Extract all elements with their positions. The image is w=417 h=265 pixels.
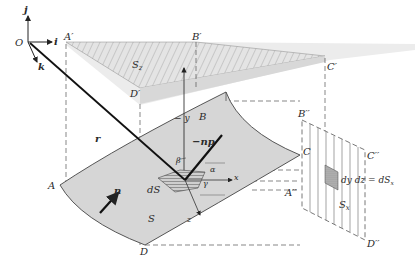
neg-y-label: − y [174, 113, 190, 123]
x-axis-label: x [234, 173, 239, 182]
c-prime-label: C′ [327, 61, 338, 72]
s-label: S [148, 213, 155, 224]
axes-origin [28, 16, 52, 62]
alpha-label: α [210, 165, 216, 174]
j-label: j [22, 4, 28, 15]
neg-np-label: −np [192, 136, 215, 147]
k-label: k [38, 61, 45, 72]
a-label: A [47, 180, 55, 191]
beta-label: β [175, 156, 181, 165]
ds-label: dS [147, 184, 160, 195]
d-label: D [139, 246, 148, 257]
b-dprime-label: B′′ [297, 108, 311, 119]
n-label: n [114, 185, 121, 196]
origin-label: O [15, 37, 23, 48]
b-label: B [198, 111, 206, 122]
c-label: C [303, 146, 311, 157]
c-dprime-label: C′′ [367, 150, 380, 161]
dydz-equation: dy dz = dSx [341, 175, 394, 186]
z-axis-label: z [186, 215, 192, 224]
gamma-label: γ [203, 179, 208, 188]
projection-sz [66, 42, 415, 105]
d-dprime-label: D′′ [366, 238, 380, 249]
i-label: i [54, 36, 58, 47]
a-prime-label: A′ [63, 31, 74, 42]
d-prime-label: D′ [129, 88, 141, 99]
a-dprime-label: A′′ [284, 187, 297, 198]
b-prime-label: B′ [191, 31, 202, 42]
r-label: r [95, 133, 101, 144]
surface-projection-diagram: O j i k A′ B′ C′ D′ Sz − y B C A D S dS … [0, 0, 417, 265]
